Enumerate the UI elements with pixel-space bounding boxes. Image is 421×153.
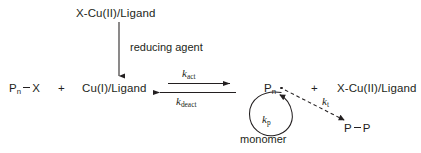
dead-polymer-p-left: P [344,122,352,134]
plus-operator-left: + [58,83,65,95]
species-propagating-radical: Pn [264,83,283,95]
dormant-chain-subscript: n [17,87,21,96]
species-oxidized-copper-right: X-Cu(II)/Ligand [337,83,416,95]
k-p-subscript: p [267,118,271,127]
monomer-label: monomer [240,134,286,145]
species-reduced-copper: Cu(I)/Ligand [82,83,146,95]
termination-arrow [285,90,344,120]
propagation-circular-arrow [250,92,293,136]
k-act-subscript: act [187,72,196,81]
dormant-chain-x: X [32,82,40,94]
reducing-agent-label: reducing agent [130,42,203,53]
radical-dot-icon [280,87,283,90]
k-deact-subscript: deact [181,100,197,109]
species-dormant-chain: PnX [9,83,40,95]
species-dead-polymer: PP [344,123,371,135]
k-t-subscript: t [327,100,329,109]
radical-chain-subscript: n [272,87,276,96]
plus-operator-right: + [311,83,318,95]
dead-polymer-p-right: P [363,122,371,134]
radical-chain-p: P [264,82,272,94]
rate-constant-deactivation: kdeact [176,96,196,107]
bond-line-icon [354,127,361,128]
species-oxidized-copper-top: X-Cu(II)/Ligand [76,8,155,20]
rate-constant-propagation: kp [262,114,271,125]
rate-constant-termination: kt [322,96,329,107]
bond-line-icon [23,87,30,88]
rate-constant-activation: kact [182,68,196,79]
dormant-chain-p: P [9,82,17,94]
